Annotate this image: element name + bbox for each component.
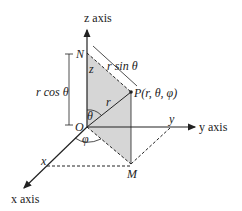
P-label: P(r, θ, φ) <box>133 86 177 100</box>
point-P <box>129 90 133 94</box>
theta-label: θ <box>87 109 93 123</box>
N-label: N <box>75 47 85 61</box>
spherical-coordinates-diagram: z axis y axis x axis N O M P(r, θ, φ) z … <box>0 0 242 211</box>
rsin-label: r sin θ <box>107 59 138 73</box>
M-label: M <box>126 167 138 181</box>
z-label: z <box>88 62 94 76</box>
z-axis-label: z axis <box>84 11 112 25</box>
y-axis-label: y axis <box>199 120 228 134</box>
x-axis-line <box>24 127 87 188</box>
phi-label: φ <box>82 132 89 146</box>
rcos-label: r cos θ <box>36 85 69 99</box>
x-axis-label: x axis <box>11 192 40 206</box>
ym-dashed <box>131 128 170 164</box>
x-label: x <box>40 154 47 168</box>
y-label: y <box>168 112 175 126</box>
r-label: r <box>106 95 111 109</box>
